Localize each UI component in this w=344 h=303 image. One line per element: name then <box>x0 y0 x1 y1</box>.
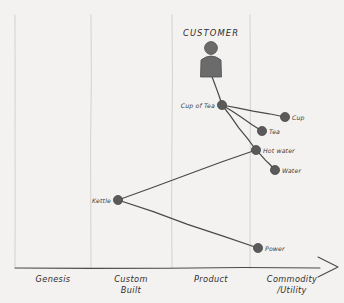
stage-label-line2: /Utility <box>267 285 317 296</box>
node-hit-kettle[interactable] <box>111 193 125 207</box>
link-kettle-to-power <box>118 200 258 248</box>
stage-label-line1: Commodity <box>267 274 317 285</box>
stage-label-line1: Genesis <box>36 274 71 285</box>
node-label-kettle: Kettle <box>92 197 111 204</box>
node-label-cup: Cup <box>292 114 305 121</box>
axis-arrowhead <box>318 257 338 277</box>
node-hit-power[interactable] <box>251 241 265 255</box>
customer-person-icon <box>201 42 222 77</box>
node-hit-tea[interactable] <box>255 124 269 138</box>
axis-line <box>15 268 320 269</box>
person-head-icon <box>205 42 218 55</box>
actor-label-customer: CUSTOMER <box>183 28 239 38</box>
wardley-map: Cup of TeaCupTeaHot waterWaterKettlePowe… <box>0 0 344 303</box>
node-hit-water[interactable] <box>268 163 282 177</box>
node-label-power: Power <box>265 245 285 252</box>
node-hit-cup[interactable] <box>278 110 292 124</box>
map-links <box>118 74 285 248</box>
stage-label-line1: Product <box>194 274 228 285</box>
gridline-1 <box>91 15 92 268</box>
stage-label-2: Product <box>194 274 228 285</box>
link-kettle-to-hot_water <box>118 150 256 200</box>
stage-label-line2: Built <box>114 285 147 296</box>
link-cup_of_tea-to-hot_water <box>222 105 256 150</box>
node-hit-cup_of_tea[interactable] <box>215 98 229 112</box>
stage-label-1: CustomBuilt <box>114 274 147 295</box>
person-body-icon <box>201 56 222 77</box>
stage-label-line1: Custom <box>114 274 147 285</box>
node-label-hot_water: Hot water <box>263 147 295 154</box>
gridline-2 <box>172 15 173 268</box>
node-label-tea: Tea <box>269 128 280 135</box>
node-label-water: Water <box>282 167 301 174</box>
stage-label-3: Commodity/Utility <box>267 274 317 295</box>
stage-label-0: Genesis <box>36 274 71 285</box>
node-label-cup_of_tea: Cup of Tea <box>181 102 215 109</box>
node-hit-hot_water[interactable] <box>249 143 263 157</box>
